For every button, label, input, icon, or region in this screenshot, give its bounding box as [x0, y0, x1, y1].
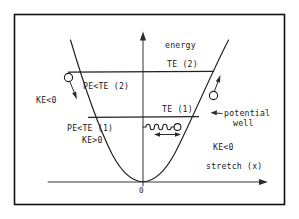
- spring-mass-icon: [174, 124, 181, 131]
- annotation-potential-well-line2: well: [233, 118, 254, 128]
- arrow-right-icon: [259, 179, 268, 185]
- diagram-canvas: energy stretch (x) 0 TE (2) TE (1) KE<0 …: [0, 0, 299, 219]
- energy-level-te1: [89, 117, 199, 118]
- ball-left-group: [64, 73, 77, 99]
- origin-label: 0: [139, 186, 144, 195]
- ball-icon: [209, 91, 217, 99]
- region-label-ke-left: KE<0: [36, 95, 57, 105]
- ball-icon: [64, 73, 72, 81]
- region-label-ke-right: KE<0: [213, 142, 234, 152]
- leader-arrow-icon: [211, 110, 223, 115]
- potential-well-curve: [71, 40, 229, 182]
- spring-icon: [143, 124, 174, 129]
- x-axis: [48, 179, 268, 185]
- arrow-down-head-icon: [72, 92, 77, 100]
- arrow-up-head-icon: [216, 75, 221, 83]
- region-label-ke-positive: KE>0: [82, 135, 103, 145]
- y-axis-label: energy: [165, 40, 196, 50]
- arrow-up-icon: [140, 32, 146, 41]
- annotation-potential-well-line1: potential: [224, 108, 270, 118]
- potential-well-figure: energy stretch (x) 0 TE (2) TE (1) KE<0 …: [0, 0, 299, 219]
- y-axis: [140, 32, 146, 187]
- double-arrow-horizontal-icon: [154, 132, 181, 137]
- x-axis-label: stretch (x): [206, 161, 262, 171]
- energy-level-te1-label: TE (1): [162, 104, 193, 114]
- region-label-pe-te2: PE<TE (2): [83, 81, 129, 91]
- energy-level-te2-label: TE (2): [167, 59, 198, 69]
- region-label-pe-te1: PE<TE (1): [67, 123, 113, 133]
- spring-mass-group: [143, 124, 181, 137]
- ball-right-group: [209, 75, 220, 100]
- energy-level-te2: [69, 71, 214, 72]
